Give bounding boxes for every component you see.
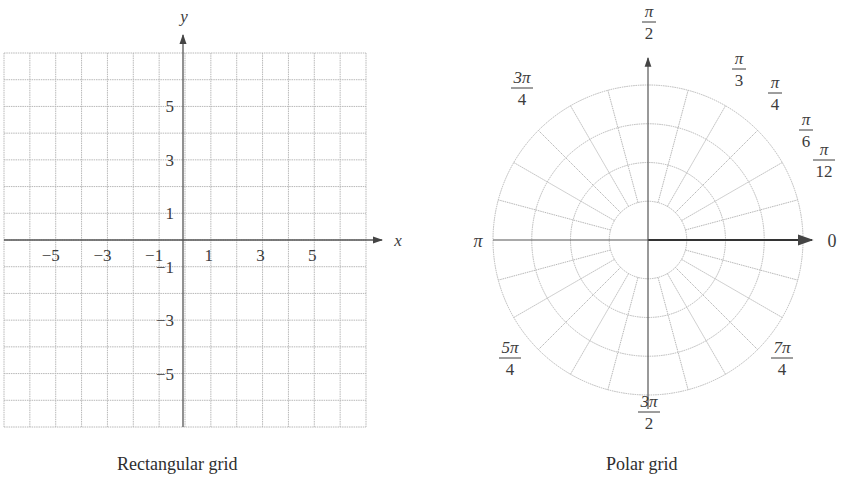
angle-label-numerator: 5π xyxy=(501,338,519,357)
angle-label-denominator: 2 xyxy=(645,414,654,433)
angle-label-denominator: 3 xyxy=(735,71,744,90)
angle-label-numerator: π xyxy=(735,49,744,68)
y-axis-label: y xyxy=(178,7,188,26)
angle-label: π12 xyxy=(813,140,835,181)
y-tick-label: −1 xyxy=(156,258,174,277)
rectangular-axes xyxy=(4,35,382,427)
angle-label-numerator: 3π xyxy=(639,392,658,411)
x-tick-label: −5 xyxy=(42,246,60,265)
angle-label-denominator: 2 xyxy=(645,24,654,43)
angle-label: 3π4 xyxy=(511,68,533,109)
y-tick-label: −3 xyxy=(156,311,174,330)
angle-label: π3 xyxy=(732,49,746,90)
polar-angle-labels: 0π12π6π4π3π23π4π5π43π27π4 xyxy=(473,2,836,433)
rectangular-tick-labels: xy−5−3−1135531−1−3−5 xyxy=(42,7,403,384)
angle-label: π6 xyxy=(799,110,813,151)
angle-label-numerator: π xyxy=(802,110,811,129)
angle-label-denominator: 6 xyxy=(802,132,811,151)
angle-label: 3π2 xyxy=(638,392,660,433)
angle-label-denominator: 12 xyxy=(816,162,833,181)
angle-label-numerator: 3π xyxy=(512,68,531,87)
angle-label-denominator: 4 xyxy=(771,95,780,114)
angle-label-numerator: 7π xyxy=(773,338,791,357)
angle-label: π2 xyxy=(642,2,656,43)
x-tick-label: 3 xyxy=(256,246,265,265)
angle-label: π xyxy=(473,231,483,251)
x-tick-label: 1 xyxy=(205,246,214,265)
polar-grid-caption: Polar grid xyxy=(606,454,678,475)
y-tick-label: 5 xyxy=(166,97,175,116)
x-tick-label: −3 xyxy=(93,246,111,265)
angle-label-numerator: π xyxy=(771,73,780,92)
angle-label: 0 xyxy=(828,231,837,251)
angle-label-text: π xyxy=(473,231,483,251)
y-tick-label: 1 xyxy=(166,204,175,223)
angle-label: 7π4 xyxy=(771,338,793,379)
angle-label: π4 xyxy=(768,73,782,114)
angle-label-denominator: 4 xyxy=(518,90,527,109)
x-axis-label: x xyxy=(393,231,402,250)
angle-label: 5π4 xyxy=(499,338,521,379)
angle-label-denominator: 4 xyxy=(506,360,515,379)
angle-label-numerator: π xyxy=(820,140,829,159)
angle-label-text: 0 xyxy=(828,231,837,251)
angle-label-numerator: π xyxy=(645,2,654,21)
rectangular-grid-caption: Rectangular grid xyxy=(117,454,237,475)
x-tick-label: 5 xyxy=(308,246,317,265)
y-tick-label: 3 xyxy=(166,151,175,170)
angle-label-denominator: 4 xyxy=(778,360,787,379)
y-tick-label: −5 xyxy=(156,365,174,384)
figure-canvas: xy−5−3−1135531−1−3−5 0π12π6π4π3π23π4π5π4… xyxy=(0,0,844,483)
